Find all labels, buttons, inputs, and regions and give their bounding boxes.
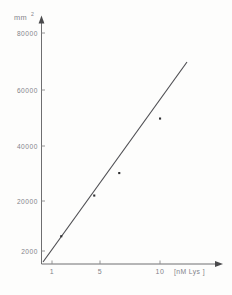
x-axis-arrow-icon — [215, 261, 223, 267]
data-point — [159, 118, 161, 120]
data-point — [93, 195, 95, 197]
trend-line — [43, 62, 187, 262]
x-tick-marks — [52, 261, 160, 265]
x-tick-label-5: 5 — [98, 268, 102, 275]
x-tick-label-10: 10 — [156, 268, 165, 275]
figure-caption-strip — [0, 286, 232, 295]
data-point-group — [60, 118, 161, 238]
data-point — [60, 235, 62, 237]
y-axis-group — [39, 16, 45, 265]
y-tick-label-80000: 80000 — [17, 30, 38, 37]
x-axis-title: [nM Lys ] — [174, 268, 205, 276]
y-axis-arrow-icon — [39, 16, 45, 24]
y-tick-marks — [42, 33, 46, 251]
y-tick-label-20000: 20000 — [17, 198, 38, 205]
figure-container: 80000 60000 40000 20000 2000 1 5 10 mm 2… — [0, 0, 232, 295]
y-tick-label-40000: 40000 — [17, 143, 38, 150]
chart-canvas: 80000 60000 40000 20000 2000 1 5 10 mm 2… — [0, 0, 232, 295]
x-tick-label-1: 1 — [50, 268, 54, 275]
y-tick-label-2000: 2000 — [21, 248, 38, 255]
y-axis-title-superscript: 2 — [31, 11, 34, 17]
y-tick-label-60000: 60000 — [17, 87, 38, 94]
x-axis-group — [42, 261, 224, 267]
y-axis-title: mm — [14, 13, 27, 22]
data-point — [118, 172, 120, 174]
